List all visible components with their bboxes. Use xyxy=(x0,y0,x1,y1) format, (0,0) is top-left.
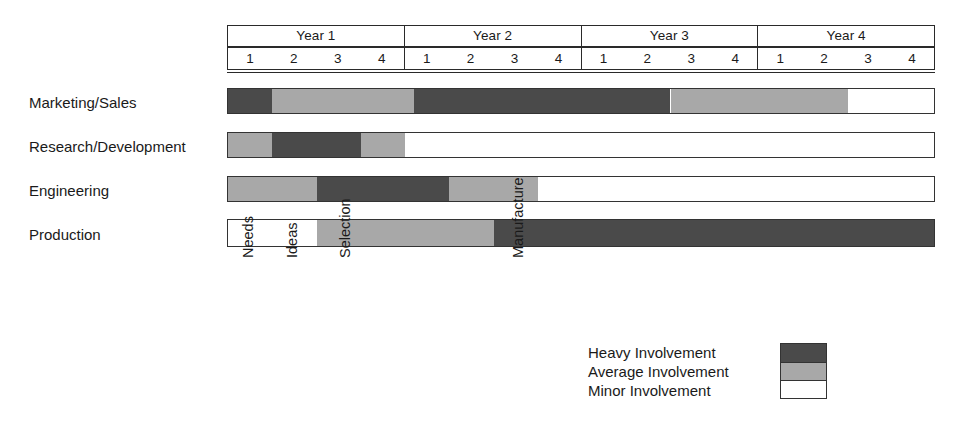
quarter-cell: 4 xyxy=(713,48,757,69)
bar-segment-heavy xyxy=(228,89,272,113)
bar-segment-heavy xyxy=(414,89,671,113)
quarter-cell: 1 xyxy=(405,48,449,69)
quarter-cell: 3 xyxy=(669,48,713,69)
bar-engineering[interactable] xyxy=(227,176,935,202)
bar-segment-heavy xyxy=(494,220,936,246)
quarter-cell: 4 xyxy=(890,48,934,69)
bar-segment-heavy xyxy=(272,133,361,157)
bar-segment-minor xyxy=(538,177,935,201)
quarter-cell: 2 xyxy=(802,48,846,69)
legend-label-heavy: Heavy Involvement xyxy=(588,343,776,362)
quarter-row: 1 2 3 4 1 2 3 4 1 2 3 4 1 2 3 4 xyxy=(227,47,935,70)
year-cell: Year 4 xyxy=(757,26,934,46)
quarter-cell: 2 xyxy=(625,48,669,69)
row-label-production: Production xyxy=(29,227,217,242)
legend-swatch-average xyxy=(781,362,826,380)
year-row: Year 1 Year 2 Year 3 Year 4 xyxy=(227,25,935,47)
milestone-label: Manufacture xyxy=(511,177,526,258)
row-label-engineering: Engineering xyxy=(29,183,217,198)
bar-segment-average xyxy=(228,177,317,201)
quarter-group-year-1: 1 2 3 4 xyxy=(228,48,404,69)
year-cell: Year 3 xyxy=(581,26,758,46)
legend-swatch-minor xyxy=(781,380,826,398)
header-underline xyxy=(227,72,935,73)
quarter-cell: 3 xyxy=(316,48,360,69)
bar-segment-average xyxy=(671,89,848,113)
legend-label-average: Average Involvement xyxy=(588,362,776,381)
quarter-group-year-4: 1 2 3 4 xyxy=(757,48,934,69)
timeline-header: Year 1 Year 2 Year 3 Year 4 1 2 3 4 1 2 … xyxy=(227,25,935,70)
legend-label-minor: Minor Involvement xyxy=(588,381,776,400)
bar-segment-average xyxy=(272,89,414,113)
quarter-cell: 1 xyxy=(758,48,802,69)
year-cell: Year 1 xyxy=(228,26,404,46)
milestone-label: Selection xyxy=(338,198,353,258)
bar-research-development[interactable] xyxy=(227,132,935,158)
row-label-marketing-sales: Marketing/Sales xyxy=(29,95,217,110)
bar-marketing-sales[interactable] xyxy=(227,88,935,114)
year-cell: Year 2 xyxy=(404,26,581,46)
bar-production[interactable] xyxy=(227,219,935,247)
quarter-cell: 3 xyxy=(493,48,537,69)
milestone-label: Ideas xyxy=(285,223,300,258)
quarter-cell: 1 xyxy=(228,48,272,69)
quarter-group-year-3: 1 2 3 4 xyxy=(581,48,758,69)
quarter-cell: 4 xyxy=(537,48,581,69)
bar-segment-minor xyxy=(848,89,936,113)
bar-segment-average xyxy=(228,133,272,157)
bar-segment-minor xyxy=(405,133,935,157)
quarter-group-year-2: 1 2 3 4 xyxy=(404,48,581,69)
legend-swatches xyxy=(780,343,827,399)
legend-labels: Heavy Involvement Average Involvement Mi… xyxy=(588,343,776,400)
quarter-cell: 2 xyxy=(449,48,493,69)
quarter-cell: 3 xyxy=(846,48,890,69)
gantt-chart: Year 1 Year 2 Year 3 Year 4 1 2 3 4 1 2 … xyxy=(0,0,959,421)
quarter-cell: 2 xyxy=(272,48,316,69)
legend-swatch-heavy xyxy=(781,344,826,362)
milestone-label: Needs xyxy=(241,216,256,258)
quarter-cell: 1 xyxy=(582,48,626,69)
bar-segment-average xyxy=(361,133,405,157)
quarter-cell: 4 xyxy=(360,48,404,69)
row-label-research-development: Research/Development xyxy=(29,139,217,154)
